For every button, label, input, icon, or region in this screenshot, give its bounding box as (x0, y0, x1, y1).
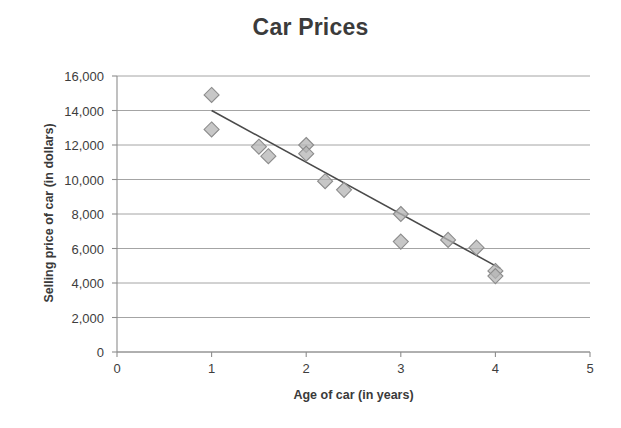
x-axis-title: Age of car (in years) (117, 388, 590, 402)
gridlines (117, 76, 590, 352)
trend-line (212, 111, 501, 269)
data-point-marker (441, 232, 456, 247)
trend-line-segment (212, 111, 501, 269)
plot-area (0, 0, 621, 428)
data-point-marker (261, 149, 276, 164)
data-points (204, 87, 503, 283)
data-point-marker (337, 182, 352, 197)
data-point-marker (204, 87, 219, 102)
data-point-marker (204, 122, 219, 137)
data-point-marker (393, 234, 408, 249)
data-point-marker (251, 139, 266, 154)
axis-ticks (112, 76, 590, 357)
data-point-marker (393, 207, 408, 222)
car-prices-scatter-chart: Car Prices Selling price of car (in doll… (0, 0, 621, 428)
